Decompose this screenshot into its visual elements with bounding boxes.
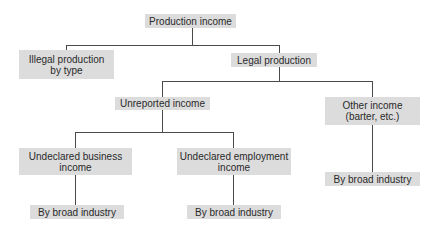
connector-to-other — [372, 81, 373, 97]
node-other-income: Other income (barter, etc.) — [325, 97, 420, 125]
connector-employment-to-industry — [233, 175, 234, 205]
connector-to-unreported — [162, 81, 163, 97]
connector-to-employment — [233, 132, 234, 148]
connector-to-legal — [279, 45, 280, 53]
node-undeclared-business-income: Undeclared business income — [19, 148, 132, 175]
connector-legal-branch — [162, 81, 373, 82]
connector-to-business — [75, 132, 76, 148]
node-legal-production: Legal production — [231, 53, 317, 67]
node-production-income: Production income — [145, 14, 236, 28]
connector-unreported-branch — [75, 132, 234, 133]
node-employment-by-broad-industry: By broad industry — [187, 205, 281, 219]
connector-legal-stem — [279, 67, 280, 81]
production-income-tree-diagram: Production income Illegal production by … — [0, 0, 438, 225]
node-undeclared-employment-income: Undeclared employment income — [177, 148, 291, 175]
node-business-by-broad-industry: By broad industry — [30, 205, 124, 219]
connector-root-branch — [66, 45, 280, 46]
node-unreported-income: Unreported income — [115, 97, 210, 110]
connector-unreported-stem — [162, 110, 163, 132]
node-other-by-broad-industry: By broad industry — [325, 172, 420, 186]
connector-root-stem — [192, 28, 193, 45]
connector-other-to-industry — [372, 125, 373, 172]
node-illegal-production: Illegal production by type — [19, 50, 114, 79]
connector-business-to-industry — [75, 175, 76, 205]
